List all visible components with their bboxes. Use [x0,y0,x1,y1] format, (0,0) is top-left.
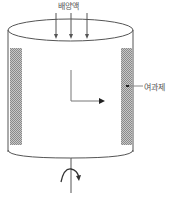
rotating-filter-diagram [0,0,182,202]
filter-band-left [10,48,22,145]
cylinder-bottom [8,150,133,158]
inflow-arrows [54,13,89,39]
radial-flow-arrow-icon [71,70,105,104]
filter-band-right [121,48,132,145]
culture-medium-label: 배양액 [58,0,79,11]
filter-agent-label: 여과제 [144,81,165,92]
